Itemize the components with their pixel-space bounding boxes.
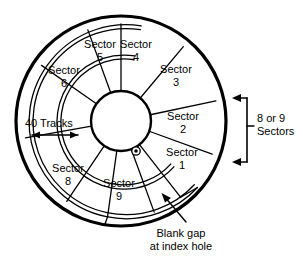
sector-label-3-number: 3 bbox=[173, 76, 179, 88]
index-hole-dot-icon bbox=[134, 149, 138, 153]
blank-gap-annotation-line1: Blank gap bbox=[157, 227, 206, 239]
sector-label-8-name: Sector bbox=[52, 162, 84, 174]
sector-label-2-number: 2 bbox=[180, 123, 186, 135]
sector-label-5-number: 5 bbox=[97, 51, 103, 63]
sectors-annotation-line1: 8 or 9 bbox=[257, 112, 285, 124]
blank-gap-annotation-line2: at index hole bbox=[150, 240, 212, 252]
sector-label-4-number: 4 bbox=[133, 51, 139, 63]
sector-label-5-name: Sector bbox=[84, 38, 116, 50]
sector-label-9-name: Sector bbox=[103, 177, 135, 189]
sectors-annotation-line2: Sectors bbox=[257, 125, 295, 137]
sector-label-3-name: Sector bbox=[160, 63, 192, 75]
tracks-annotation-label: 40 Tracks bbox=[25, 117, 73, 129]
sector-label-4-name: Sector bbox=[120, 38, 152, 50]
sector-label-6-name: Sector bbox=[48, 64, 80, 76]
floppy-disk-diagram: Sector 1 Sector 2 Sector 3 Sector 4 Sect… bbox=[0, 0, 303, 265]
diagram-canvas: Sector 1 Sector 2 Sector 3 Sector 4 Sect… bbox=[0, 0, 303, 265]
sector-label-8-number: 8 bbox=[65, 175, 71, 187]
sector-label-2-name: Sector bbox=[167, 110, 199, 122]
sector-label-1-number: 1 bbox=[179, 159, 185, 171]
sector-label-1-name: Sector bbox=[166, 146, 198, 158]
sector-label-9-number: 9 bbox=[116, 190, 122, 202]
sector-label-6-number: 6 bbox=[61, 77, 67, 89]
